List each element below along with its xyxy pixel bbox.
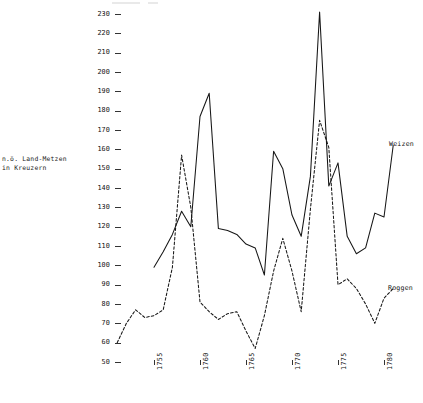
weizen-series-label: Weizen xyxy=(389,141,414,148)
chart-root: n.ö. Land-Metzen in Kreuzern 50607080901… xyxy=(0,0,423,403)
roggen-line xyxy=(117,120,393,348)
roggen-series-label: Roggen xyxy=(388,285,413,292)
plot-area xyxy=(0,0,423,403)
weizen-line xyxy=(154,12,393,275)
